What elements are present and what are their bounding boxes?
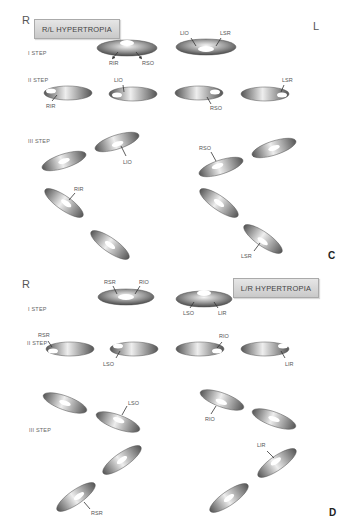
c-right-side-label: R bbox=[22, 14, 30, 26]
panel-d-letter: D bbox=[329, 507, 336, 518]
d-step2-label-lso: LSO bbox=[103, 361, 114, 367]
c-step2-label: II STEP bbox=[28, 77, 48, 83]
c-step2-label-lio: LIO bbox=[114, 77, 123, 83]
d-step3-eye-a bbox=[41, 389, 89, 418]
c-rir-arrow bbox=[69, 193, 75, 200]
d-step3-eye-b bbox=[94, 408, 142, 437]
diagram-canvas bbox=[0, 0, 349, 526]
c-step3-label-rso: RSO bbox=[199, 145, 211, 151]
d-step1-label: I STEP bbox=[28, 306, 47, 312]
c-step1-label-rir: RIR bbox=[109, 60, 118, 66]
c-step3-label-rir: RIR bbox=[74, 186, 83, 192]
d-step2-eye-2 bbox=[110, 342, 158, 358]
c-left-side-label: L bbox=[313, 20, 319, 32]
d-step2-label-rsr: RSR bbox=[38, 332, 50, 338]
d-step3-label-rsr: RSR bbox=[91, 510, 103, 516]
panel-c-letter: C bbox=[328, 250, 335, 261]
d-step2-label-lir: LIR bbox=[285, 361, 294, 367]
d-step3-label-lso: LSO bbox=[128, 400, 139, 406]
d-step3-eye-g bbox=[254, 444, 300, 482]
c-step2-label-lsr: LSR bbox=[282, 77, 293, 83]
c-step3-label: III STEP bbox=[28, 138, 50, 144]
d-step2-label: II STEP bbox=[27, 340, 47, 346]
c-step3-label-lio: LIO bbox=[123, 159, 132, 165]
d-step1-label-lso: LSO bbox=[183, 310, 194, 316]
d-rsr-arrow bbox=[84, 502, 90, 509]
d-step3-label: III STEP bbox=[29, 427, 51, 433]
d-step2-eye-4 bbox=[241, 342, 289, 358]
c-step3-eye-g bbox=[196, 184, 242, 222]
c-step1-right-eye bbox=[97, 40, 157, 58]
d-step3-eye-f bbox=[250, 405, 298, 434]
d-step1-label-lir: LIR bbox=[218, 310, 227, 316]
d-step3-eye-h bbox=[206, 479, 252, 517]
d-step1-label-rsr: RSR bbox=[104, 279, 116, 285]
c-step2-eye-4 bbox=[241, 85, 289, 101]
c-step3-eye-d bbox=[87, 226, 133, 264]
d-right-side-label: R bbox=[22, 278, 30, 290]
c-step2-eye-2 bbox=[109, 85, 157, 101]
d-step3-eye-e bbox=[198, 386, 246, 415]
c-step2-eye-3 bbox=[175, 86, 223, 104]
c-step3-eye-f bbox=[250, 134, 298, 162]
c-step1-label-rso: RSO bbox=[142, 60, 154, 66]
d-step1-label-rio: RIO bbox=[139, 279, 149, 285]
d-title-box: L/R HYPERTROPIA bbox=[233, 278, 319, 298]
c-lio-arrow bbox=[121, 146, 126, 156]
c-lsr-arrow bbox=[254, 243, 260, 251]
c-step1-left-eye bbox=[176, 38, 236, 55]
d-lso-arrow bbox=[122, 406, 127, 415]
c-step3-label-lsr: LSR bbox=[241, 253, 252, 259]
d-lir-arrow bbox=[267, 451, 274, 458]
c-step3-eye-b bbox=[93, 128, 141, 156]
c-step2-label-rir: RIR bbox=[46, 103, 55, 109]
c-rso-arrow bbox=[211, 152, 216, 161]
c-step1-label-lsr: LSR bbox=[220, 30, 231, 36]
d-step1-right-eye bbox=[98, 286, 154, 305]
c-step1-label: I STEP bbox=[28, 50, 47, 56]
d-step2-eye-3 bbox=[176, 342, 224, 356]
d-step3-label-lir: LIR bbox=[257, 442, 266, 448]
c-step3-eye-e bbox=[197, 153, 245, 181]
c-title-box: R/L HYPERTROPIA bbox=[34, 19, 120, 39]
d-step3-label-rio: RIO bbox=[205, 416, 215, 422]
d-step2-label-rio: RIO bbox=[219, 333, 229, 339]
c-step1-label-lio: LIO bbox=[180, 30, 189, 36]
d-step1-left-eye bbox=[176, 290, 232, 308]
d-rio-arrow bbox=[211, 406, 216, 414]
c-step3-eye-a bbox=[40, 147, 88, 175]
d-step3-eye-c bbox=[99, 441, 145, 479]
c-step2-label-rso: RSO bbox=[210, 105, 222, 111]
d-step2-eye-1 bbox=[46, 341, 94, 356]
c-step2-eye-1 bbox=[44, 86, 92, 101]
